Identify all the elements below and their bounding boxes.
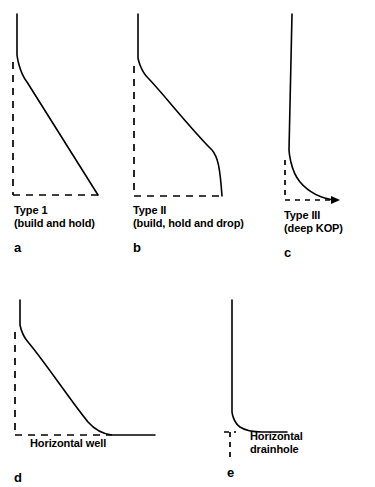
panel-d-letter: d [14, 470, 22, 485]
panel-e-letter: e [227, 465, 234, 480]
well-profiles-figure [0, 0, 375, 487]
panel-b-caption-line2: (build, hold and drop) [133, 217, 244, 230]
panel-e-inline-label-line1: Horizontal [250, 430, 303, 443]
panel-d-inline-label: Horizontal well [30, 437, 106, 450]
panel-a-letter: a [14, 240, 21, 255]
panel-c-caption-line2: (deep KOP) [284, 222, 343, 235]
panel-b-letter: b [133, 240, 141, 255]
panel-c-caption: Type III (deep KOP) [284, 209, 343, 234]
figure-background [0, 0, 375, 487]
panel-a-caption: Type 1 (build and hold) [14, 204, 95, 229]
panel-b-caption-line1: Type II [133, 204, 244, 217]
panel-e-inline-label: Horizontal drainhole [250, 430, 303, 455]
panel-a-caption-line2: (build and hold) [14, 217, 95, 230]
panel-e-inline-label-line2: drainhole [250, 443, 303, 456]
panel-a-caption-line1: Type 1 [14, 204, 95, 217]
panel-c-caption-line1: Type III [284, 209, 343, 222]
panel-c-letter: c [284, 245, 291, 260]
panel-b-caption: Type II (build, hold and drop) [133, 204, 244, 229]
